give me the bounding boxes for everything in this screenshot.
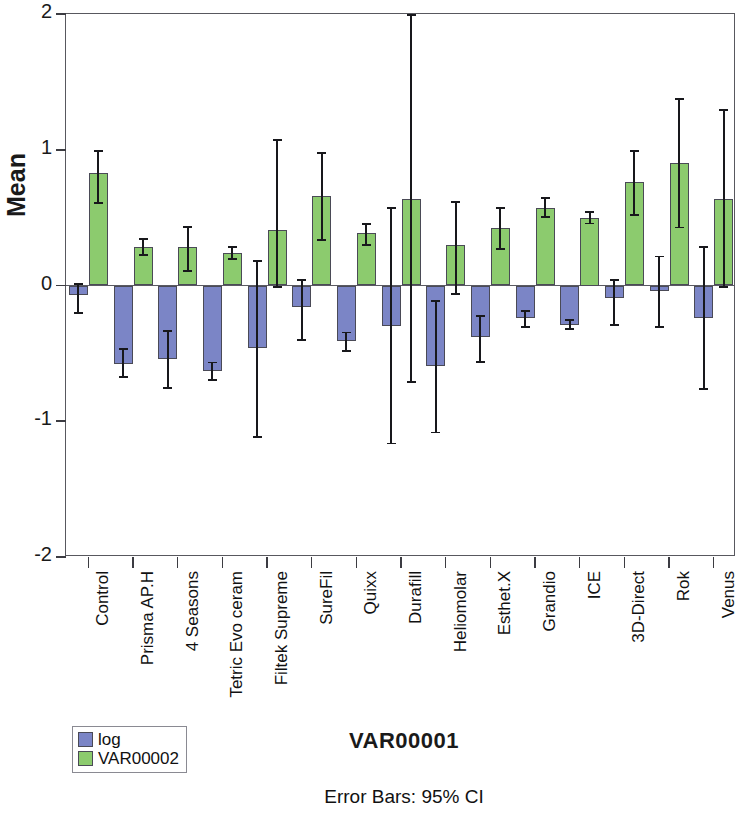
error-bar-cap	[253, 260, 262, 262]
error-bar-cap	[163, 330, 172, 332]
chart-footnote: Error Bars: 95% CI	[0, 786, 738, 808]
error-bar-cap	[273, 286, 282, 288]
error-bar-cap	[387, 443, 396, 445]
x-axis-tick	[88, 557, 90, 568]
error-bar-cap	[163, 387, 172, 389]
x-axis-tick	[356, 557, 358, 568]
error-bar-cap	[273, 139, 282, 141]
error-bar-cap	[407, 381, 416, 383]
error-bar-cap	[228, 246, 237, 248]
error-bar-line	[499, 207, 501, 250]
error-bar-line	[321, 152, 323, 240]
error-bar-cap	[719, 286, 728, 288]
error-bar-line	[345, 332, 347, 352]
error-bar-cap	[610, 324, 619, 326]
error-bar-cap	[119, 376, 128, 378]
x-axis-tick-label: SureFil	[317, 571, 337, 625]
x-axis-tick-label: 4 Seasons	[183, 571, 203, 651]
error-bar-cap	[451, 201, 460, 203]
error-bar-line	[77, 283, 79, 314]
error-bar-cap	[476, 361, 485, 363]
error-bar-line	[633, 150, 635, 217]
error-bar-cap	[585, 223, 594, 225]
error-bar-cap	[565, 328, 574, 330]
error-bar-cap	[317, 239, 326, 241]
error-bar-cap	[719, 109, 728, 111]
error-bar-cap	[496, 207, 505, 209]
bar-log-tetric-evo-ceram	[203, 286, 222, 372]
error-bar-cap	[74, 283, 83, 285]
x-axis-tick	[132, 557, 134, 568]
error-bar-cap	[407, 14, 416, 16]
error-bar-cap	[675, 227, 684, 229]
x-axis-tick	[668, 557, 670, 568]
x-axis-tick	[534, 557, 536, 568]
error-bar-cap	[94, 202, 103, 204]
y-axis-tick	[56, 149, 66, 151]
error-bar-cap	[521, 326, 530, 328]
x-axis-title: VAR00001	[0, 728, 738, 754]
x-axis-tick-label: Quixx	[361, 571, 381, 614]
error-bar-cap	[451, 293, 460, 295]
error-bar-line	[97, 150, 99, 204]
x-axis-tick-label: Tetric Evo ceram	[227, 571, 247, 698]
error-bar-cap	[228, 258, 237, 260]
error-bar-cap	[476, 315, 485, 317]
x-axis-tick-label: Prisma AP.H	[138, 571, 158, 665]
error-bar-cap	[253, 436, 262, 438]
x-axis-tick-label: Filtek Supreme	[272, 571, 292, 685]
error-bar-line	[723, 109, 725, 288]
error-bar-line	[435, 300, 437, 433]
error-bar-line	[256, 260, 258, 438]
error-bar-line	[365, 223, 367, 246]
error-bar-cap	[655, 256, 664, 258]
x-axis-tick	[400, 557, 402, 568]
y-axis-tick-label: 2	[0, 0, 52, 23]
x-axis-tick	[311, 557, 313, 568]
x-axis-tick-label: Grandio	[540, 571, 560, 631]
error-bar-cap	[585, 211, 594, 213]
chart-root: Mean 210-1-2 ControlPrisma AP.H4 Seasons…	[0, 0, 738, 813]
error-bar-cap	[630, 150, 639, 152]
error-bar-cap	[74, 312, 83, 314]
error-bar-line	[479, 315, 481, 363]
error-bar-cap	[208, 362, 217, 364]
error-bar-cap	[699, 388, 708, 390]
x-axis-tick	[713, 557, 715, 568]
error-bar-cap	[541, 197, 550, 199]
x-axis-tick	[266, 557, 268, 568]
error-bar-cap	[431, 300, 440, 302]
error-bar-line	[455, 201, 457, 295]
error-bar-cap	[565, 319, 574, 321]
x-axis-tick	[579, 557, 581, 568]
error-bar-line	[703, 246, 705, 390]
error-bar-cap	[317, 152, 326, 154]
x-axis-tick	[624, 557, 626, 568]
error-bar-line	[301, 279, 303, 341]
error-bar-cap	[342, 332, 351, 334]
error-bar-cap	[362, 244, 371, 246]
error-bar-line	[613, 279, 615, 327]
error-bar-cap	[521, 310, 530, 312]
error-bar-cap	[297, 339, 306, 341]
error-bar-cap	[362, 223, 371, 225]
error-bar-line	[390, 207, 392, 445]
error-bar-cap	[541, 216, 550, 218]
error-bar-cap	[119, 348, 128, 350]
error-bar-cap	[342, 350, 351, 352]
x-axis-tick	[222, 557, 224, 568]
x-axis-tick	[177, 557, 179, 568]
y-axis-tick-label: 0	[0, 272, 52, 295]
y-axis-tick-label: -2	[0, 543, 52, 566]
y-axis-tick	[56, 556, 66, 558]
error-bar-cap	[387, 207, 396, 209]
y-axis-tick	[56, 420, 66, 422]
x-axis-tick	[445, 557, 447, 568]
x-axis-tick-label: Heliomolar	[451, 571, 471, 652]
y-axis-tick-label: -1	[0, 407, 52, 430]
error-bar-cap	[139, 254, 148, 256]
error-bar-cap	[297, 279, 306, 281]
error-bar-cap	[431, 432, 440, 434]
error-bar-line	[122, 348, 124, 378]
error-bar-line	[276, 139, 278, 288]
